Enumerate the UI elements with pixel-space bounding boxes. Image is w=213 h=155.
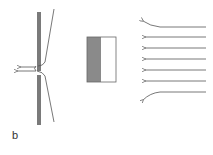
diagram-canvas (0, 0, 213, 155)
panel-label: b (12, 129, 18, 141)
block-dark-half (87, 37, 101, 82)
rod-assembly (17, 9, 54, 125)
two-tone-block (87, 37, 116, 82)
flow-arrow-curved-bottom (143, 92, 206, 100)
flow-arrows (143, 21, 206, 100)
flow-arrow-curved-top (143, 21, 206, 27)
vertical-rod (37, 12, 41, 71)
block-light-half (101, 37, 116, 82)
vertical-rod-lower (37, 75, 41, 125)
